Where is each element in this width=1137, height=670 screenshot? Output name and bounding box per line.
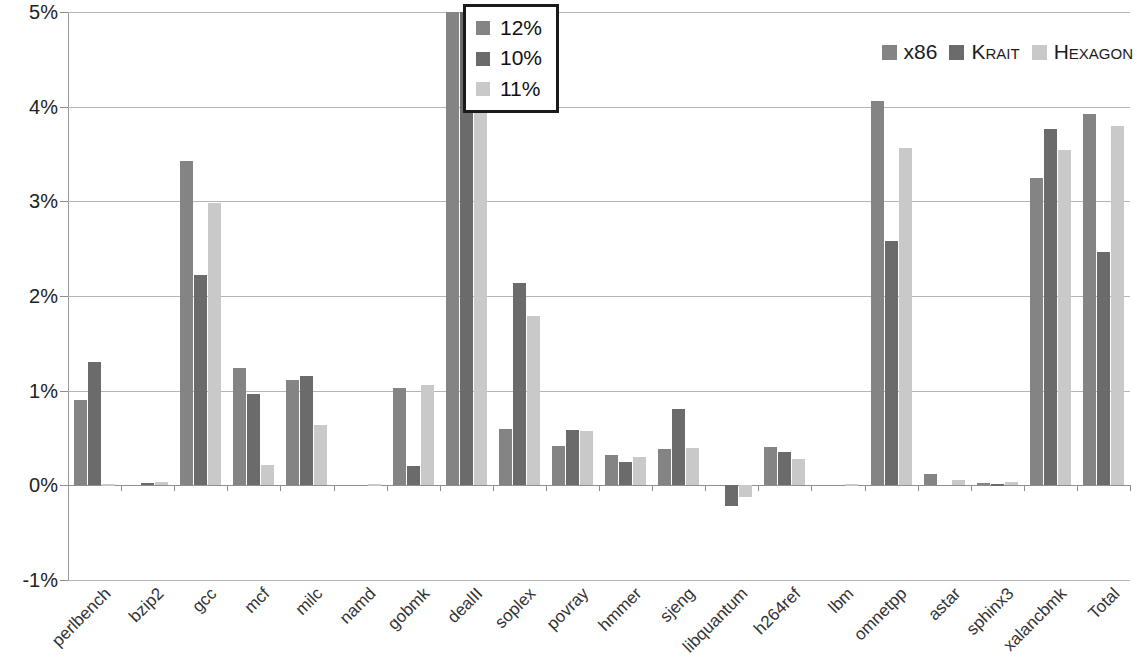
bar-group [865, 12, 918, 580]
bar-krait-libquantum [725, 485, 738, 506]
callout-value: 11% [500, 74, 540, 104]
bar-krait-soplex [513, 283, 526, 486]
y-tick-label: 3% [29, 190, 58, 213]
bar-group [918, 12, 971, 580]
y-tick-label: 2% [29, 285, 58, 308]
bar-x86-sphinx3 [977, 483, 990, 485]
bar-group [971, 12, 1024, 580]
bar-hexagon-soplex [527, 316, 540, 485]
bar-hexagon-gcc [208, 203, 221, 485]
plot-area [68, 12, 1130, 580]
x-axis-label-text: gobmk [383, 584, 433, 634]
callout-swatch-icon [476, 21, 490, 35]
bar-x86-milc [286, 380, 299, 485]
y-tick-label: 0% [29, 474, 58, 497]
bar-krait-perlbench [88, 362, 101, 485]
x-axis-label-text: astar [924, 584, 965, 625]
x-axis-label-text: perlbench [48, 584, 115, 651]
bar-hexagon-sjeng [686, 448, 699, 485]
x-axis-label-text: bzip2 [125, 584, 168, 627]
x-axis-label-text: lbm [825, 584, 859, 618]
bar-group [652, 12, 705, 580]
y-tick-mark [60, 201, 68, 202]
legend-label: Hexagon [1054, 40, 1133, 64]
x-axis-label-text: mcf [241, 584, 275, 618]
legend-item-krait: Krait [949, 40, 1019, 64]
bar-krait-sphinx3 [991, 484, 1004, 486]
bar-group [387, 12, 440, 580]
bar-x86-hmmer [605, 455, 618, 485]
bar-krait-milc [300, 376, 313, 485]
y-tick-mark [60, 485, 68, 486]
bar-krait-bzip2 [141, 483, 154, 485]
bar-chart: 5%4%3%2%1%0%-1% perlbenchbzip2gccmcfmilc… [0, 0, 1137, 670]
x-axis-labels: perlbenchbzip2gccmcfmilcnamdgobmkdealIIs… [68, 584, 1130, 670]
bar-x86-omnetpp [871, 101, 884, 485]
bar-hexagon-hmmer [633, 457, 646, 485]
bar-x86-total [1083, 114, 1096, 485]
y-tick-mark [60, 580, 68, 581]
bar-x86-soplex [499, 429, 512, 486]
x-tick-mark [1130, 485, 1131, 491]
bar-hexagon-gobmk [421, 385, 434, 485]
bar-krait-xalancbmk [1044, 129, 1057, 485]
callout-swatch-icon [476, 82, 490, 96]
x-axis-label-text: Total [1084, 584, 1124, 624]
x-axis-label-text: hmmer [595, 584, 647, 636]
x-axis-label-text: h264ref [750, 584, 805, 639]
y-tick-mark [60, 107, 68, 108]
bar-x86-astar [924, 474, 937, 485]
callout-swatch-icon [476, 52, 490, 66]
bar-group [758, 12, 811, 580]
bar-group [811, 12, 864, 580]
bar-x86-mcf [233, 368, 246, 485]
callout-row: 12% [476, 13, 542, 43]
x-axis-label-text: sjeng [656, 584, 699, 627]
legend-item-hexagon: Hexagon [1032, 40, 1133, 64]
bar-group [705, 12, 758, 580]
bar-hexagon-perlbench [102, 484, 115, 486]
bar-krait-omnetpp [885, 241, 898, 485]
bar-group [1077, 12, 1130, 580]
legend-label: Krait [971, 40, 1019, 64]
legend-swatch-icon [1032, 45, 1047, 60]
bar-hexagon-omnetpp [899, 148, 912, 485]
bar-x86-xalancbmk [1030, 178, 1043, 486]
bar-x86-dealii [446, 12, 459, 485]
bar-group [334, 12, 387, 580]
y-tick-mark [60, 296, 68, 297]
callout-value: 10% [500, 43, 542, 73]
bar-krait-h264ref [778, 452, 791, 485]
bar-krait-total [1097, 252, 1110, 485]
callout-value: 12% [500, 13, 542, 43]
bar-hexagon-namd [368, 484, 381, 486]
bar-group [280, 12, 333, 580]
bar-group [1024, 12, 1077, 580]
bar-hexagon-astar [952, 480, 965, 486]
bar-group [68, 12, 121, 580]
chart-legend: x86KraitHexagon [882, 40, 1133, 64]
bar-hexagon-lbm [845, 484, 858, 486]
bar-groups [68, 12, 1130, 580]
bar-krait-povray [566, 430, 579, 485]
x-axis-label-text: povray [543, 584, 593, 634]
callout-box: 12%10%11% [463, 4, 559, 113]
y-tick-mark [60, 391, 68, 392]
bar-krait-mcf [247, 394, 260, 486]
bar-hexagon-mcf [261, 465, 274, 486]
y-tick-label: 5% [29, 1, 58, 24]
callout-row: 10% [476, 43, 542, 73]
y-tick-label: 1% [29, 379, 58, 402]
bar-krait-gcc [194, 275, 207, 485]
bar-krait-sjeng [672, 409, 685, 486]
x-axis-label-text: milc [292, 584, 328, 620]
bar-x86-povray [552, 446, 565, 486]
bar-x86-gobmk [393, 388, 406, 486]
bar-x86-h264ref [764, 447, 777, 486]
bar-hexagon-xalancbmk [1058, 150, 1071, 485]
callout-row: 11% [476, 74, 542, 104]
bar-x86-gcc [180, 161, 193, 486]
y-tick-label: -1% [22, 569, 58, 592]
bar-hexagon-h264ref [792, 459, 805, 486]
x-axis-label-text: namd [336, 584, 380, 628]
